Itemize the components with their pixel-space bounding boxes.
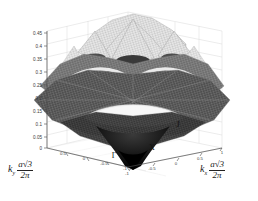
z-tick-label: 0.15 [33,109,42,114]
ky-axis-label: ky a√3 2π [8,160,33,180]
z-tick-label: 0 [39,146,42,151]
ky-numerator: a√3 [17,160,33,170]
x-tick-label: -1 [125,171,129,176]
gamma-point-label: Γ [112,151,117,160]
band-structure-figure: 0.45 0.4 0.35 0.3 0.25 0.2 0.15 0.1 0.05… [0,0,258,201]
z-tick-label: 0.2 [36,96,43,101]
z-tick-label: 0.25 [33,83,42,88]
ky-symbol: ky [8,164,15,176]
kx-numerator: a√3 [209,160,225,170]
z-tick-labels: 0.45 0.4 0.35 0.3 0.25 0.2 0.15 0.1 0.05… [33,31,42,151]
kx-symbol: kx [200,164,207,176]
x-tick-label: 1 [221,150,224,155]
j-point-label: J [176,120,179,129]
z-tick-label: 0.4 [36,44,43,49]
z-tick-label: 0.45 [33,31,42,36]
z-tick-label: 0.05 [33,135,42,140]
x-tick-label: 0 [175,161,178,166]
kx-axis-label: kx a√3 2π [200,160,225,180]
y-tick-label: 0.5 [60,151,67,156]
x-tick-label: -0.5 [148,166,156,171]
x-point-label: X [149,143,155,152]
ky-fraction: a√3 2π [17,160,33,180]
z-tick-label: 0.1 [36,122,43,127]
y-tick-label: -0.5 [100,161,108,166]
z-tick-label: 0.35 [33,57,42,62]
ky-denominator: 2π [20,171,31,181]
z-tick-label: 0.3 [36,70,43,75]
kx-fraction: a√3 2π [209,160,225,180]
kx-denominator: 2π [212,171,223,181]
